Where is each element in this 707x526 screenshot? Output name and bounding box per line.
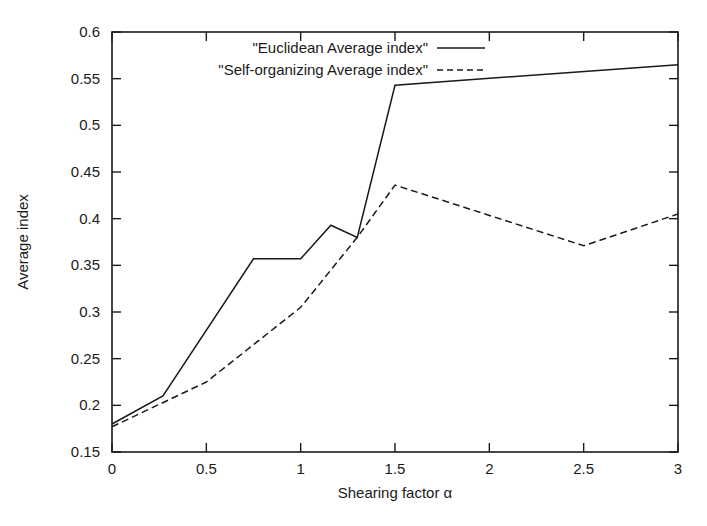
- chart-legend: "Euclidean Average index""Self-organizin…: [218, 39, 485, 78]
- x-tick-label: 3: [674, 460, 682, 477]
- y-tick-label: 0.4: [79, 210, 100, 227]
- y-tick-label: 0.45: [71, 163, 100, 180]
- y-tick-label: 0.6: [79, 23, 100, 40]
- series-group: [112, 65, 678, 427]
- legend-label-1: "Euclidean Average index": [253, 39, 429, 56]
- y-tick-label: 0.5: [79, 116, 100, 133]
- y-tick-label: 0.2: [79, 396, 100, 413]
- x-axis-title: Shearing factor α: [338, 484, 453, 501]
- y-axis-title: Average index: [14, 194, 31, 290]
- y-tick-label: 0.15: [71, 443, 100, 460]
- y-tick-label: 0.55: [71, 70, 100, 87]
- x-tick-label: 0.5: [196, 460, 217, 477]
- series-line-2: [112, 185, 678, 427]
- chart-page: 0.150.20.250.30.350.40.450.50.550.6 00.5…: [0, 0, 707, 526]
- y-tick-label: 0.25: [71, 350, 100, 367]
- x-tick-label: 0: [108, 460, 116, 477]
- x-tick-label: 2.5: [573, 460, 594, 477]
- x-tick-label: 1.5: [385, 460, 406, 477]
- x-tick-label: 2: [485, 460, 493, 477]
- y-tick-label: 0.35: [71, 256, 100, 273]
- legend-label-2: "Self-organizing Average index": [218, 61, 428, 78]
- series-line-1: [112, 65, 678, 424]
- y-axis-ticks: 0.150.20.250.30.350.40.450.50.550.6: [71, 23, 678, 460]
- x-axis-ticks: 00.511.522.53: [108, 32, 682, 477]
- y-tick-label: 0.3: [79, 303, 100, 320]
- x-tick-label: 1: [296, 460, 304, 477]
- line-chart: 0.150.20.250.30.350.40.450.50.550.6 00.5…: [0, 0, 707, 526]
